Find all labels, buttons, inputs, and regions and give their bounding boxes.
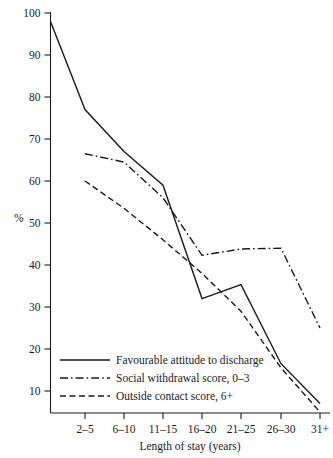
x-axis-ticks <box>85 413 320 419</box>
y-tick-label-50: 50 <box>29 217 41 229</box>
x-tick-label-0: 2–5 <box>76 423 94 435</box>
axis-group <box>51 12 331 413</box>
legend-label-1: Social withdrawal score, 0–3 <box>116 372 250 385</box>
y-axis-tick-labels: 102030405060708090100 <box>23 7 41 397</box>
y-axis-title: % <box>14 212 24 224</box>
x-axis-title: Length of stay (years) <box>139 440 240 453</box>
y-tick-label-20: 20 <box>29 343 41 355</box>
chart-legend: Favourable attitude to dischargeSocial w… <box>60 354 264 403</box>
y-axis-ticks <box>45 13 51 391</box>
y-tick-label-80: 80 <box>29 91 41 103</box>
x-tick-label-4: 21–25 <box>227 423 256 435</box>
x-tick-label-1: 6–10 <box>113 423 136 435</box>
line-chart: 102030405060708090100 2–56–1011–1516–202… <box>0 0 333 458</box>
y-tick-label-40: 40 <box>29 259 41 271</box>
x-tick-label-2: 11–15 <box>149 423 178 435</box>
series-line-1 <box>85 154 320 328</box>
x-tick-label-6: 31+ <box>311 423 329 435</box>
y-tick-label-70: 70 <box>29 133 41 145</box>
legend-label-2: Outside contact score, 6+ <box>116 390 233 403</box>
y-tick-label-10: 10 <box>29 385 41 397</box>
x-tick-label-3: 16–20 <box>188 423 217 435</box>
y-tick-label-100: 100 <box>23 7 41 19</box>
legend-label-0: Favourable attitude to discharge <box>116 354 264 367</box>
chart-container: 102030405060708090100 2–56–1011–1516–202… <box>0 0 333 458</box>
x-tick-label-5: 26–30 <box>267 423 296 435</box>
x-axis-tick-labels: 2–56–1011–1516–2021–2526–3031+ <box>76 423 329 435</box>
y-tick-label-90: 90 <box>29 49 41 61</box>
series-line-0 <box>51 21 321 403</box>
y-tick-label-60: 60 <box>29 175 41 187</box>
y-tick-label-30: 30 <box>29 301 41 313</box>
